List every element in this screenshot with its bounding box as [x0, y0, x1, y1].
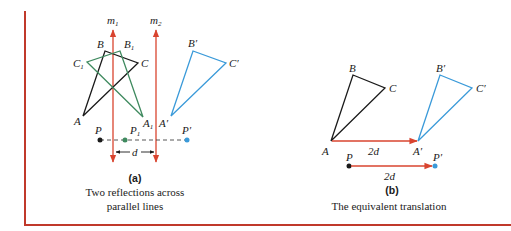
label-c: C [141, 57, 149, 69]
label-c-prime: C′ [229, 57, 239, 69]
point-p [98, 138, 103, 143]
point-p-prime-b [433, 164, 438, 169]
point-p1 [123, 138, 128, 143]
label-b-prime-b: B′ [436, 62, 446, 74]
label-p1: P1 [129, 124, 140, 138]
label-c-b: C [389, 82, 397, 94]
label-b-b: B [349, 62, 356, 74]
label-p-b: P [345, 151, 353, 163]
triangle-a1b1c1 [87, 51, 143, 117]
label-b1: B1 [124, 38, 134, 52]
mirror-label-m2: m2 [150, 14, 162, 28]
label-b-prime: B′ [188, 37, 198, 49]
panel-a: m1 m2 B C A B1 C1 A1 B′ C′ A′ P P1 P′ d … [73, 14, 239, 212]
translation-label-triangle: 2d [368, 145, 380, 157]
translation-label-point: 2d [384, 170, 396, 182]
label-a1: A1 [142, 117, 153, 131]
triangle-a-prime-b-prime-c-prime [171, 51, 226, 116]
label-p-prime-b: P′ [432, 151, 443, 163]
triangle-abc-b [331, 75, 385, 141]
panel-a-tag: (a) [129, 172, 142, 184]
label-p-prime: P′ [181, 124, 192, 136]
panel-a-caption-line2: parallel lines [107, 200, 164, 212]
triangle-a-prime-b-prime-c-prime-b [418, 75, 472, 141]
panel-a-caption-line1: Two reflections across [86, 186, 185, 198]
label-a-prime: A′ [158, 117, 169, 129]
panel-b-caption: The equivalent translation [332, 200, 447, 212]
label-p: P [94, 124, 102, 136]
label-c-prime-b: C′ [476, 82, 486, 94]
distance-label-d: d [132, 146, 138, 158]
point-p-b [347, 164, 352, 169]
label-c1: C1 [73, 57, 84, 71]
point-p-prime [185, 138, 190, 143]
label-a: A [73, 115, 81, 127]
label-b: B [97, 38, 104, 50]
mirror-label-m1: m1 [107, 14, 118, 28]
label-a-prime-b: A′ [412, 145, 423, 157]
panel-b-tag: (b) [385, 184, 398, 196]
reflection-translation-figure: m1 m2 B C A B1 C1 A1 B′ C′ A′ P P1 P′ d … [0, 0, 511, 231]
panel-b: B C A B′ C′ A′ 2d P P′ 2d (b) The equiva… [321, 62, 486, 212]
label-a-b: A [321, 145, 329, 157]
